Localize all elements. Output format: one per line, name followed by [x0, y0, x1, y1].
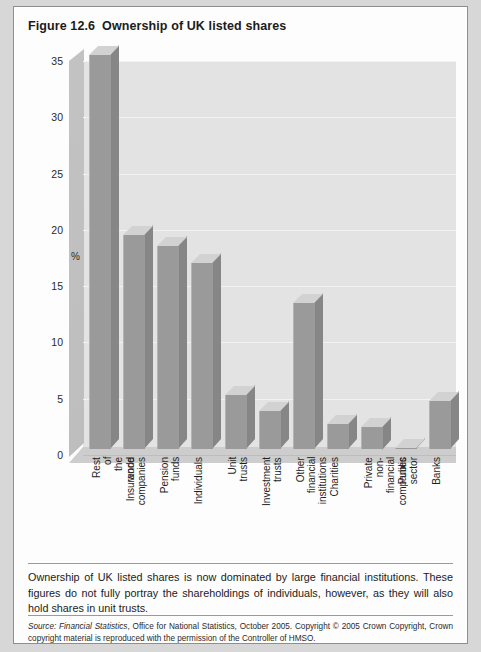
bar-front-face — [191, 263, 213, 449]
x-axis-tick-label: Insurance companies — [125, 457, 147, 505]
source-label: Source: — [28, 622, 56, 631]
bar: Pension funds — [157, 246, 178, 449]
x-axis-tick-label: Pension funds — [159, 457, 181, 493]
bar-side-face — [246, 385, 255, 449]
y-axis-tick-10: 10 — [51, 336, 63, 348]
bar-front-face — [395, 448, 417, 449]
bar-front-face — [429, 401, 451, 449]
x-axis-tick-label: Charities — [329, 457, 340, 496]
x-axis-tick-label: Unit trusts — [227, 457, 249, 481]
bar-side-face — [212, 253, 221, 449]
y-axis-tick-0: 0 — [57, 449, 63, 461]
bar: Insurance companies — [123, 235, 144, 449]
bar: Other financial institutions — [293, 303, 314, 449]
bar: Individuals — [191, 263, 212, 449]
figure-number: Figure 12.6 — [28, 19, 95, 33]
bar-front-face — [89, 55, 111, 449]
figure-caption: Ownership of UK listed shares is now dom… — [28, 570, 453, 617]
bar: Banks — [429, 401, 450, 449]
bar-side-face — [314, 293, 323, 449]
bar-front-face — [259, 411, 281, 449]
plot-area: 05101520253035 Rest of the worldInsuranc… — [69, 49, 456, 463]
bar-front-face — [327, 424, 349, 449]
y-axis-unit-label: % — [71, 251, 80, 262]
bar: Public sector — [395, 448, 416, 449]
figure-title-text: Ownership of UK listed shares — [102, 19, 286, 33]
y-axis-tick-15: 15 — [51, 280, 63, 292]
bar: Investment trusts — [259, 411, 280, 449]
bar: Unit trusts — [225, 395, 246, 449]
y-axis-tick-30: 30 — [51, 111, 63, 123]
bar-front-face — [361, 427, 383, 450]
bar-front-face — [157, 246, 179, 449]
bar-top-face — [395, 439, 425, 448]
x-axis-tick-label: Banks — [431, 457, 442, 485]
y-axis-tick-35: 35 — [51, 55, 63, 67]
chart: 05101520253035 Rest of the worldInsuranc… — [28, 41, 456, 561]
x-axis-tick-label: Public sector — [397, 457, 419, 484]
bar: Charities — [327, 424, 348, 449]
bar-series: Rest of the worldInsurance companiesPens… — [83, 49, 456, 449]
source-divider — [28, 615, 453, 616]
bar: Private non-financial companies — [361, 427, 382, 450]
x-axis-tick-label: Investment trusts — [261, 457, 283, 506]
bar-front-face — [225, 395, 247, 449]
x-axis-tick-label: Other financial institutions — [295, 457, 329, 504]
figure-title: Figure 12.6Ownership of UK listed shares — [28, 19, 286, 33]
bar-front-face — [123, 235, 145, 449]
source-publication: Financial Statistics — [59, 622, 127, 631]
caption-divider — [28, 563, 453, 564]
gridline-0 — [83, 455, 456, 456]
bar-front-face — [293, 303, 315, 449]
figure-panel: Figure 12.6Ownership of UK listed shares… — [13, 6, 468, 644]
y-axis-tick-20: 20 — [51, 224, 63, 236]
bar-side-face — [110, 45, 119, 449]
bar-side-face — [144, 225, 153, 449]
bar: Rest of the world — [89, 55, 110, 449]
y-axis-tick-25: 25 — [51, 168, 63, 180]
y-axis-tick-5: 5 — [57, 393, 63, 405]
x-axis-tick-label: Individuals — [193, 457, 204, 504]
bar-side-face — [178, 236, 187, 449]
figure-source: Source: Financial Statistics, Office for… — [28, 621, 453, 646]
